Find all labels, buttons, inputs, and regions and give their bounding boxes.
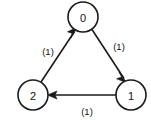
node-1-label: 1	[128, 90, 134, 102]
node-0-label: 0	[80, 12, 86, 24]
node-2[interactable]: 2	[18, 80, 48, 110]
edge-line-2-to-0	[41, 32, 75, 83]
edge-1-to-2	[48, 91, 117, 99]
edge-0-to-1	[92, 30, 127, 84]
diagram-canvas: 0 1 2 (1) (1) (1)	[0, 0, 151, 120]
edge-label-0-to-1: (1)	[113, 41, 125, 52]
node-2-label: 2	[30, 90, 36, 102]
node-0[interactable]: 0	[68, 2, 98, 32]
edge-line-0-to-1	[92, 30, 124, 79]
edge-label-2-to-0: (1)	[42, 46, 54, 57]
node-1[interactable]: 1	[116, 80, 146, 110]
edge-label-1-to-2: (1)	[81, 106, 93, 117]
directed-graph: 0 1 2 (1) (1) (1)	[0, 0, 151, 120]
